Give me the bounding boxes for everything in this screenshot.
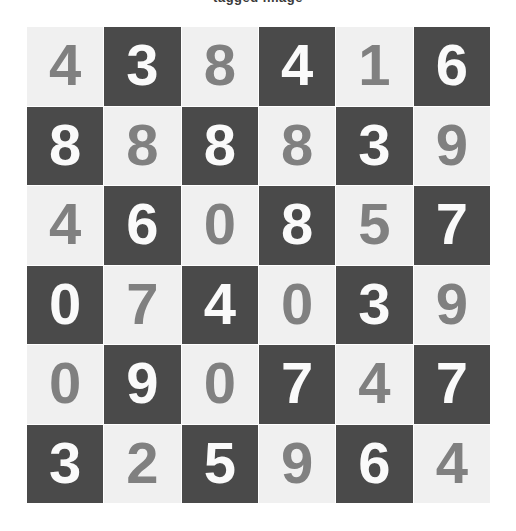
cell-digit: 0 bbox=[204, 195, 236, 253]
grid-cell[interactable]: 3 bbox=[104, 27, 180, 106]
cell-digit: 0 bbox=[49, 275, 81, 333]
clipped-caption-text: tagged image bbox=[0, 0, 516, 5]
grid-cell[interactable]: 6 bbox=[336, 425, 412, 504]
cell-digit: 3 bbox=[358, 116, 390, 174]
cell-digit: 4 bbox=[49, 36, 81, 94]
grid-cell[interactable]: 4 bbox=[182, 266, 258, 345]
grid-cell[interactable]: 3 bbox=[336, 266, 412, 345]
cell-digit: 5 bbox=[204, 434, 236, 492]
cell-digit: 3 bbox=[49, 434, 81, 492]
grid-cell[interactable]: 4 bbox=[414, 425, 490, 504]
grid-cell[interactable]: 4 bbox=[336, 345, 412, 424]
cell-digit: 8 bbox=[204, 36, 236, 94]
cell-digit: 5 bbox=[358, 195, 390, 253]
grid-cell[interactable]: 8 bbox=[27, 107, 103, 186]
grid-cell[interactable]: 4 bbox=[259, 27, 335, 106]
grid-cell[interactable]: 9 bbox=[414, 107, 490, 186]
cell-digit: 7 bbox=[436, 354, 468, 412]
grid-cell[interactable]: 9 bbox=[104, 345, 180, 424]
grid-cell[interactable]: 0 bbox=[182, 345, 258, 424]
cell-digit: 4 bbox=[49, 195, 81, 253]
cell-digit: 7 bbox=[126, 275, 158, 333]
grid-cell[interactable]: 4 bbox=[27, 186, 103, 265]
grid-cell[interactable]: 7 bbox=[104, 266, 180, 345]
grid-cell[interactable]: 8 bbox=[104, 107, 180, 186]
cell-digit: 8 bbox=[204, 116, 236, 174]
cell-digit: 4 bbox=[281, 36, 313, 94]
grid-cell[interactable]: 0 bbox=[27, 345, 103, 424]
grid-cell[interactable]: 7 bbox=[414, 345, 490, 424]
grid-cell[interactable]: 0 bbox=[259, 266, 335, 345]
grid-cell[interactable]: 0 bbox=[182, 186, 258, 265]
cell-digit: 7 bbox=[436, 195, 468, 253]
cell-digit: 2 bbox=[126, 434, 158, 492]
grid-cell[interactable]: 4 bbox=[27, 27, 103, 106]
grid-cell[interactable]: 9 bbox=[259, 425, 335, 504]
grid-cell[interactable]: 7 bbox=[414, 186, 490, 265]
cell-digit: 7 bbox=[281, 354, 313, 412]
cell-digit: 0 bbox=[204, 354, 236, 412]
grid-cell[interactable]: 3 bbox=[336, 107, 412, 186]
cell-digit: 3 bbox=[126, 36, 158, 94]
cell-digit: 9 bbox=[281, 434, 313, 492]
cell-digit: 9 bbox=[436, 275, 468, 333]
grid-cell[interactable]: 5 bbox=[182, 425, 258, 504]
cell-digit: 0 bbox=[49, 354, 81, 412]
cell-digit: 4 bbox=[436, 434, 468, 492]
cell-digit: 6 bbox=[358, 434, 390, 492]
grid-cell[interactable]: 8 bbox=[259, 107, 335, 186]
grid-cell[interactable]: 6 bbox=[104, 186, 180, 265]
grid-cell[interactable]: 7 bbox=[259, 345, 335, 424]
grid-cell[interactable]: 6 bbox=[414, 27, 490, 106]
cell-digit: 9 bbox=[126, 354, 158, 412]
cell-digit: 1 bbox=[358, 36, 390, 94]
cell-digit: 8 bbox=[281, 116, 313, 174]
grid-cell[interactable]: 2 bbox=[104, 425, 180, 504]
cell-digit: 4 bbox=[358, 354, 390, 412]
grid-cell[interactable]: 1 bbox=[336, 27, 412, 106]
grid-cell[interactable]: 0 bbox=[27, 266, 103, 345]
cell-digit: 0 bbox=[281, 275, 313, 333]
cell-digit: 4 bbox=[204, 275, 236, 333]
cell-digit: 8 bbox=[281, 195, 313, 253]
cell-digit: 6 bbox=[126, 195, 158, 253]
grid-cell[interactable]: 8 bbox=[182, 27, 258, 106]
cell-digit: 3 bbox=[358, 275, 390, 333]
grid-cell[interactable]: 8 bbox=[259, 186, 335, 265]
grid-cell[interactable]: 3 bbox=[27, 425, 103, 504]
grid-cell[interactable]: 9 bbox=[414, 266, 490, 345]
grid-cell[interactable]: 5 bbox=[336, 186, 412, 265]
cell-digit: 8 bbox=[49, 116, 81, 174]
cell-digit: 8 bbox=[126, 116, 158, 174]
cell-digit: 9 bbox=[436, 116, 468, 174]
cell-digit: 6 bbox=[436, 36, 468, 94]
grid-cell[interactable]: 8 bbox=[182, 107, 258, 186]
digit-grid: 438416888839460857074039090747325964 bbox=[27, 27, 490, 503]
